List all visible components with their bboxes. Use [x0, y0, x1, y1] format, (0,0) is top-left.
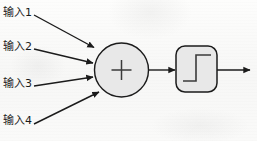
neuron-diagram	[0, 0, 257, 141]
connection-in1	[34, 15, 94, 48]
diagram-canvas: 输入1 输入2 输入3 输入4	[0, 0, 257, 141]
connection-in2	[34, 49, 93, 63]
input-label-2: 输入2	[3, 41, 32, 52]
input-label-1: 输入1	[3, 7, 32, 18]
input-label-4: 输入4	[3, 115, 32, 126]
input-label-3: 输入3	[3, 78, 32, 89]
connection-in4	[34, 92, 99, 124]
connection-in3	[34, 77, 93, 86]
